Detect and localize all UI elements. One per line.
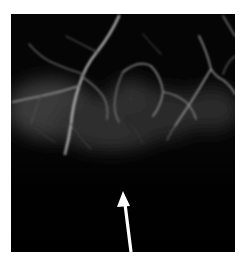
vessel-network — [11, 14, 235, 252]
angiogram-image — [11, 14, 235, 252]
lower-fade — [11, 14, 235, 252]
